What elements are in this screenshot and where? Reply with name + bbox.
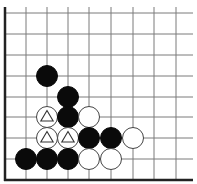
black-stone[interactable] <box>79 128 100 149</box>
black-stone[interactable] <box>58 149 79 170</box>
black-stone[interactable] <box>37 149 58 170</box>
go-board[interactable] <box>0 0 197 184</box>
white-stone[interactable] <box>79 149 100 170</box>
black-stone[interactable] <box>37 66 58 87</box>
black-stone[interactable] <box>58 107 79 128</box>
white-stone[interactable] <box>79 107 100 128</box>
black-stone[interactable] <box>58 87 79 108</box>
white-stone[interactable] <box>37 128 58 149</box>
black-stone[interactable] <box>101 128 122 149</box>
white-stone[interactable] <box>123 128 144 149</box>
white-stone[interactable] <box>37 107 58 128</box>
white-stone[interactable] <box>58 128 79 149</box>
black-stone[interactable] <box>16 149 37 170</box>
white-stone[interactable] <box>101 149 122 170</box>
